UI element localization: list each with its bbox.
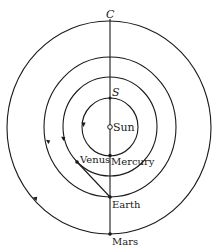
sun-icon	[108, 125, 113, 130]
earth-venus-line	[77, 162, 110, 197]
orbit-diagram: C S Sun Venus Mercury Earth Mars	[0, 0, 216, 252]
label-mercury: Mercury	[111, 156, 155, 167]
label-venus: Venus	[79, 154, 110, 165]
label-s: S	[112, 86, 120, 99]
label-c: C	[106, 8, 115, 21]
label-sun: Sun	[113, 121, 135, 134]
label-mars: Mars	[112, 236, 138, 247]
venus-dot	[75, 160, 79, 164]
label-earth: Earth	[112, 199, 141, 210]
